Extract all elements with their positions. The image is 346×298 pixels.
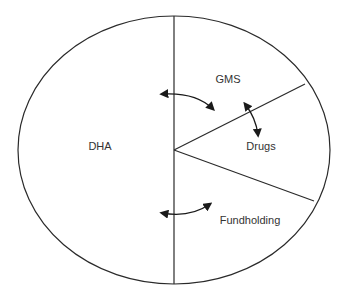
label-dha: DHA (88, 141, 111, 152)
label-gms: GMS (215, 74, 240, 85)
dha-fundholding-arrow (162, 204, 210, 214)
label-drugs: Drugs (246, 141, 275, 152)
funding-diagram: DHA GMS Drugs Fundholding (0, 0, 346, 298)
diagram-canvas (0, 0, 346, 298)
dha-gms-arrow (162, 94, 213, 109)
gms-drugs-divider (174, 84, 305, 150)
label-fundholding: Fundholding (220, 215, 281, 226)
drugs-fundholding-divider (174, 150, 314, 201)
